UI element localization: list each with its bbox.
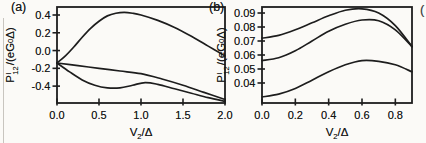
y-tick-label: -0.4 [32, 80, 51, 92]
curve-middle-decline [57, 63, 225, 99]
panel-b-plot: 0.00.20.40.60.80.090.080.070.060.050.04 [234, 7, 412, 121]
x-tick-label: 0.0 [254, 109, 269, 121]
cropped-next-panel-tag: ( [420, 2, 424, 17]
panel-a-y-axis-label: PI12/(eG0Δ) [3, 5, 19, 105]
x-tick-label: 0.0 [49, 109, 64, 121]
plot-frame [57, 7, 225, 103]
ylabel-end: Δ) [216, 27, 228, 39]
ylabel-mid: /(eG [5, 43, 17, 65]
ylabel-sub0: 0 [7, 39, 15, 43]
curve-lower-dip-bump [57, 63, 225, 101]
ylabel-sub: 12 [12, 66, 20, 74]
x-tick-label: 0.6 [354, 109, 369, 121]
y-tick-label: 0.08 [234, 21, 255, 33]
ylabel-supsub: I12 [4, 66, 19, 74]
curve-bottom [262, 60, 412, 97]
y-tick-label: 0.4 [35, 9, 50, 21]
x-tick-label: 0.8 [388, 109, 403, 121]
y-tick-label: 0.09 [234, 7, 255, 19]
panel-a-x-axis-label: V2/Δ [57, 127, 225, 140]
y-tick-label: 0.05 [234, 63, 255, 75]
x-tick-label: 2.0 [217, 109, 232, 121]
x-tick-label: 0.4 [321, 109, 336, 121]
y-tick-label: 0.04 [234, 77, 255, 89]
ylabel-sub: 12 [223, 66, 231, 74]
curve-upper-hump [57, 12, 225, 63]
y-tick-label: -0.2 [32, 62, 51, 74]
ylabel-supsub: I12 [215, 66, 230, 74]
ylabel-base: P [5, 75, 17, 83]
curve-middle [262, 20, 412, 61]
xlabel-rest: /Δ [337, 126, 348, 138]
ylabel-end: Δ) [5, 27, 17, 39]
y-tick-label: 0.07 [234, 35, 255, 47]
panel-a-plot: 0.00.51.01.52.00.40.20.0-0.2-0.4 [32, 7, 233, 121]
ylabel-base: P [216, 75, 228, 83]
y-tick-label: 0.2 [35, 27, 50, 39]
x-tick-label: 0.5 [91, 109, 106, 121]
panel-b-y-axis-label: PI12/(eG0Δ) [214, 5, 230, 105]
figure: 0.00.51.01.52.00.40.20.0-0.2-0.4 0.00.20… [0, 0, 426, 143]
y-tick-label: 0.06 [234, 49, 255, 61]
x-tick-label: 1.5 [175, 109, 190, 121]
x-tick-label: 1.0 [133, 109, 148, 121]
ylabel-sub0: 0 [218, 39, 226, 43]
ylabel-mid: /(eG [216, 43, 228, 65]
y-tick-label: 0.0 [35, 45, 50, 57]
panel-b-x-axis-label: V2/Δ [262, 127, 412, 140]
plots-canvas: 0.00.51.01.52.00.40.20.0-0.2-0.4 0.00.20… [0, 0, 426, 143]
x-tick-label: 0.2 [288, 109, 303, 121]
xlabel-rest: /Δ [141, 126, 152, 138]
